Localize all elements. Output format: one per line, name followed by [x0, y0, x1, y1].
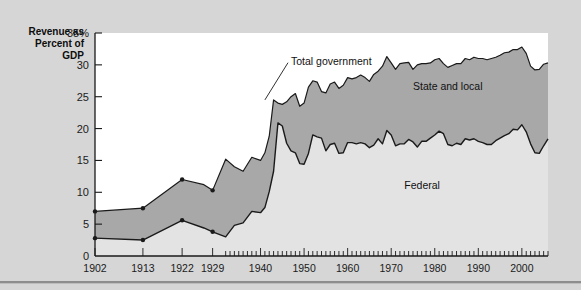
data-point-marker-federal-1929	[210, 230, 214, 234]
x-axis-tick-labels: 1902191319221929194019501960197019801990…	[83, 262, 533, 274]
x-tick-label-1980: 1980	[423, 262, 447, 274]
data-point-marker-total-1922	[180, 177, 184, 181]
data-point-marker-federal-1922	[180, 218, 184, 222]
data-point-marker-total-1929	[210, 188, 214, 192]
data-point-marker-federal-1913	[141, 238, 145, 242]
x-tick-label-1922: 1922	[170, 262, 194, 274]
y-tick-label-15: 15	[77, 154, 89, 166]
label-total-government: Total government	[291, 55, 372, 67]
y-tick-label-5: 5	[83, 218, 89, 230]
label-state-and-local: State and local	[413, 80, 482, 92]
x-tick-label-1902: 1902	[83, 262, 107, 274]
revenue-gdp-area-chart: 05101520253035% 190219131922192919401950…	[0, 0, 581, 290]
y-tick-label-20: 20	[77, 123, 89, 135]
footer-divider	[0, 281, 581, 283]
y-tick-label-25: 25	[77, 91, 89, 103]
data-point-marker-total-1913	[141, 206, 145, 210]
x-tick-label-1960: 1960	[336, 262, 360, 274]
label-federal: Federal	[404, 179, 440, 191]
y-axis-tick-labels: 05101520253035%	[67, 27, 89, 262]
y-tick-label-0: 0	[83, 250, 89, 262]
y-tick-label-35: 35%	[67, 27, 89, 39]
x-tick-label-1990: 1990	[467, 262, 491, 274]
x-tick-label-1940: 1940	[249, 262, 273, 274]
y-tick-label-30: 30	[77, 59, 89, 71]
y-tick-label-10: 10	[77, 186, 89, 198]
x-tick-label-1929: 1929	[201, 262, 225, 274]
x-tick-label-1970: 1970	[380, 262, 404, 274]
x-tick-label-1913: 1913	[131, 262, 155, 274]
chart-page: Revenue as Percent of GDP 05101520253035…	[0, 0, 581, 290]
x-tick-label-1950: 1950	[292, 262, 316, 274]
x-tick-label-2000: 2000	[510, 262, 534, 274]
